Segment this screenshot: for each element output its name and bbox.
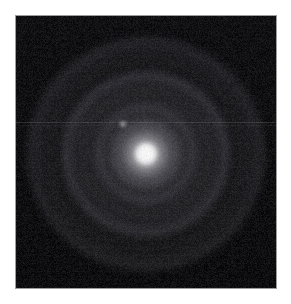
stellar-core: [136, 144, 157, 165]
image-plate: [15, 15, 277, 289]
image-alt-text: Dark astronomical frame showing a bright…: [0, 0, 1, 1]
image-page: Dark astronomical frame showing a bright…: [0, 0, 291, 304]
